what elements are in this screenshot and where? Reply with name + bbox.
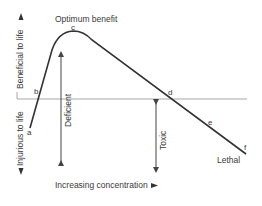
- point-d-label: d: [168, 89, 172, 97]
- point-e-label: e: [208, 119, 212, 127]
- arrow-right-icon: [151, 183, 158, 188]
- beneficial-axis-label: Beneficial to life: [16, 29, 25, 89]
- point-a-label: a: [27, 129, 31, 137]
- arrow-down-icon: [19, 168, 24, 175]
- lethal-label: Lethal: [217, 156, 240, 165]
- optimum-benefit-label: Optimum benefit: [55, 15, 117, 24]
- point-c-label: c: [71, 24, 75, 32]
- deficient-label: Deficient: [64, 94, 73, 127]
- x-axis-label: Increasing concentration: [55, 181, 148, 190]
- point-f-label: f: [244, 144, 246, 152]
- diagram-graphics: [0, 0, 262, 206]
- arrow-up-icon: [19, 13, 24, 20]
- point-b-label: b: [34, 88, 38, 96]
- injurious-axis-label: Injurious to life: [16, 111, 25, 166]
- dose-response-diagram: Optimum benefit Beneficial to life Injur…: [0, 0, 262, 206]
- response-curve: [30, 31, 246, 154]
- toxic-label: Toxic: [159, 131, 168, 150]
